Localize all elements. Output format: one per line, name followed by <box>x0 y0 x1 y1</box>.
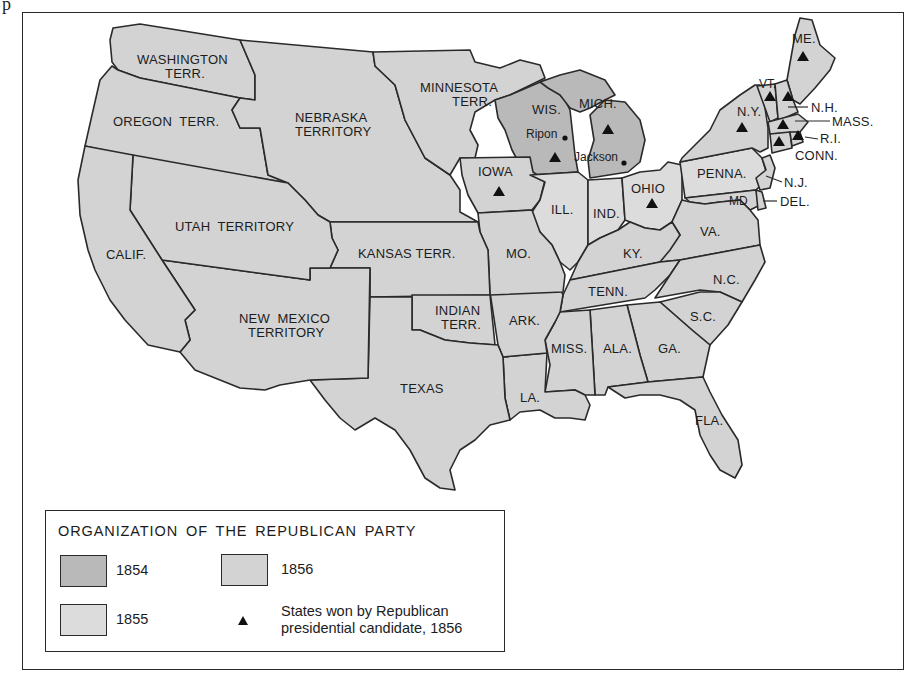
label-mich: MICH. <box>579 96 617 111</box>
label-ohio: OHIO <box>631 181 665 196</box>
label-ga: GA. <box>658 341 681 356</box>
region-del <box>756 190 766 210</box>
label-vt: VT. <box>759 77 776 91</box>
label-minnesota-2: TERR. <box>452 94 492 109</box>
label-mo: MO. <box>506 246 531 261</box>
label-indian-2: TERR. <box>441 317 481 332</box>
label-texas: TEXAS <box>400 381 444 396</box>
label-washington-2: TERR. <box>165 66 205 81</box>
label-utah: UTAH TERRITORY <box>175 219 294 234</box>
legend-title: ORGANIZATION OF THE REPUBLICAN PARTY <box>58 523 416 539</box>
legend-marker-label-line2: presidential candidate, 1856 <box>281 620 462 637</box>
label-miss: MISS. <box>551 341 587 356</box>
label-penna: PENNA. <box>697 166 747 181</box>
label-va: VA. <box>700 224 721 239</box>
label-new-mexico: NEW MEXICO <box>239 311 330 326</box>
label-nebraska: NEBRASKA <box>295 110 368 125</box>
label-nj: N.J. <box>784 175 808 190</box>
legend-marker-label: States won by Republican presidential ca… <box>281 603 462 637</box>
label-minnesota: MINNESOTA <box>420 80 498 95</box>
label-la: LA. <box>520 390 540 405</box>
legend-label-1855: 1855 <box>116 611 148 627</box>
label-del: DEL. <box>780 194 810 209</box>
label-kansas: KANSAS TERR. <box>358 246 456 261</box>
label-nebraska-2: TERRITORY <box>295 124 372 139</box>
label-md: MD <box>729 194 748 208</box>
legend-box: ORGANIZATION OF THE REPUBLICAN PARTY 185… <box>45 510 505 652</box>
label-ky: KY. <box>623 246 643 261</box>
legend-label-1854: 1854 <box>116 562 148 578</box>
ripon-dot <box>562 135 567 140</box>
legend-swatch-1855 <box>60 604 107 636</box>
label-calif: CALIF. <box>106 247 146 262</box>
label-new-mexico-2: TERRITORY <box>248 325 325 340</box>
legend-marker-label-line1: States won by Republican <box>281 603 462 620</box>
label-ill: ILL. <box>551 202 573 217</box>
label-iowa: IOWA <box>478 164 513 179</box>
label-conn: CONN. <box>795 148 838 163</box>
label-fla: FLA. <box>695 413 723 428</box>
label-ind: IND. <box>593 206 620 221</box>
label-jackson: Jackson <box>574 150 618 164</box>
label-mass: MASS. <box>832 114 873 129</box>
label-indian: INDIAN <box>435 303 480 318</box>
legend-triangle-icon <box>238 616 248 625</box>
label-ri: R.I. <box>820 131 841 146</box>
label-nh: N.H. <box>811 100 838 115</box>
legend-swatch-1856 <box>221 554 268 586</box>
jackson-dot <box>621 160 626 165</box>
label-me: ME. <box>792 31 816 46</box>
region-mich <box>588 100 645 178</box>
label-washington: WASHINGTON <box>137 52 228 67</box>
legend-swatch-1854 <box>60 555 107 587</box>
label-ripon: Ripon <box>526 127 557 141</box>
label-tenn: TENN. <box>588 284 628 299</box>
label-ala: ALA. <box>603 341 632 356</box>
label-ark: ARK. <box>509 313 540 328</box>
label-wis: WIS. <box>532 102 561 117</box>
label-sc: S.C. <box>690 309 716 324</box>
label-oregon: OREGON TERR. <box>113 114 219 129</box>
label-ny: N.Y. <box>737 104 761 119</box>
legend-label-1856: 1856 <box>281 561 313 577</box>
label-nc: N.C. <box>713 272 740 287</box>
